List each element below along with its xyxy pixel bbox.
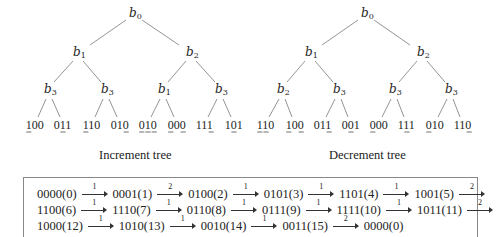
- tree-edge: [315, 61, 333, 82]
- tree-edge: [142, 20, 179, 45]
- sequence-line: 1000(12)11010(13)10010(14)10011(15)20000…: [37, 219, 403, 234]
- state-value: 1100(6): [37, 203, 76, 218]
- tree-leaf: 010: [139, 118, 157, 132]
- arrow-label: 1: [156, 198, 182, 207]
- tree-root-node: b0: [129, 6, 142, 21]
- state-value: 0101(3): [264, 187, 304, 202]
- state-value: 0011(15): [282, 219, 327, 234]
- tree-edge: [196, 61, 215, 82]
- state-value: 0000(0): [364, 219, 404, 234]
- tree-edge: [269, 99, 279, 117]
- tree-node: b3: [389, 82, 402, 97]
- tree-root-node: b0: [361, 6, 374, 21]
- arrow-label: 2: [157, 182, 183, 191]
- tree-edge: [382, 99, 391, 117]
- tree-leaf: 111: [398, 118, 415, 132]
- arrow-label: 2: [467, 198, 493, 207]
- tree-edge: [427, 61, 445, 82]
- tree-edge: [341, 99, 348, 117]
- tree-edge: [453, 99, 460, 117]
- tree-node: b1: [73, 45, 86, 60]
- state-value: 1101(4): [339, 187, 378, 202]
- arrow-label: 1: [82, 182, 108, 191]
- tree-leaf: 010: [426, 118, 444, 132]
- decrement-tree-caption: Decrement tree: [329, 148, 406, 163]
- tree-edge: [322, 20, 358, 45]
- state-value: 0000(0): [37, 187, 77, 202]
- tree-leaf: 000: [168, 118, 186, 132]
- tree-edge: [95, 99, 103, 117]
- arrow-label: 1: [251, 214, 277, 223]
- tree-node: b2: [186, 45, 199, 60]
- tree-leaf: 100: [26, 118, 44, 132]
- arrow-label: 1: [386, 198, 412, 207]
- arrow-label: 1: [306, 198, 332, 207]
- state-value: 1001(5): [414, 187, 454, 202]
- tree-node: b2: [277, 82, 290, 97]
- state-value: 0001(1): [113, 187, 153, 202]
- tree-edge: [151, 99, 160, 117]
- tree-node: b3: [101, 82, 114, 97]
- arrow-label: 2: [459, 182, 485, 191]
- tree-leaf: 001: [342, 118, 360, 132]
- tree-leaf: 000: [370, 118, 388, 132]
- tree-edge: [223, 99, 231, 117]
- tree-node: b1: [305, 45, 318, 60]
- tree-leaf: 110: [454, 118, 472, 132]
- arrow-label: 1: [170, 214, 196, 223]
- state-value: 0010(14): [201, 219, 247, 234]
- transition-arrow-icon: 1: [88, 219, 114, 231]
- tree-node: b3: [215, 82, 228, 97]
- tree-edge: [54, 61, 73, 82]
- tree-leaf: 010: [111, 118, 129, 132]
- tree-edge: [287, 61, 305, 82]
- tree-node: b3: [44, 82, 57, 97]
- transition-arrow-icon: 1: [251, 219, 277, 231]
- tree-node: b3: [333, 82, 346, 97]
- tree-edge: [109, 99, 117, 117]
- tree-leaf: 011: [314, 118, 332, 132]
- arrow-label: 1: [88, 214, 114, 223]
- tree-leaf: 011: [54, 118, 72, 132]
- transition-arrow-icon: 1: [170, 219, 196, 231]
- tree-edge: [374, 20, 410, 45]
- tree-edge: [83, 61, 101, 82]
- transition-arrow-icon: 2: [333, 219, 359, 231]
- sequence-box: 0000(0)10001(1)20100(2)10101(3)11101(4)1…: [23, 177, 478, 237]
- increment-tree: b0b1b2b3b3b1b3100011110010010000111101: [26, 6, 243, 132]
- tree-leaf: 100: [286, 118, 304, 132]
- tree-edge: [438, 99, 447, 117]
- tree-leaf: 110: [257, 118, 275, 132]
- transition-arrow-icon: 2: [467, 203, 493, 215]
- tree-edge: [166, 99, 174, 117]
- arrow-label: 1: [233, 182, 259, 191]
- tree-edge: [168, 61, 186, 82]
- transition-arrow-icon: 1: [386, 203, 412, 215]
- arrow-label: 1: [231, 198, 257, 207]
- tree-edge: [52, 99, 60, 117]
- tree-edge: [399, 61, 417, 82]
- tree-edge: [90, 20, 126, 45]
- arrow-label: 1: [383, 182, 409, 191]
- state-value: 1010(13): [119, 219, 165, 234]
- arrow-label: 1: [81, 198, 107, 207]
- increment-tree-caption: Increment tree: [99, 148, 172, 163]
- tree-edge: [38, 99, 46, 117]
- tree-edge: [208, 99, 217, 117]
- decrement-tree: b0b1b2b2b3b3b3110100011001000111010110: [257, 6, 472, 132]
- tree-leaf: 111: [196, 118, 213, 132]
- tree-leaf: 110: [83, 118, 101, 132]
- state-value: 1011(11): [417, 203, 462, 218]
- state-value: 1110(7): [112, 203, 151, 218]
- arrow-label: 2: [333, 214, 359, 223]
- arrow-label: 1: [308, 182, 334, 191]
- state-value: 0100(2): [188, 187, 228, 202]
- tree-leaf: 101: [225, 118, 243, 132]
- trees-diagram: b0b1b2b3b3b1b3100011110010010000111101 b…: [0, 0, 503, 140]
- tree-edge: [285, 99, 292, 117]
- tree-edge: [397, 99, 404, 117]
- tree-node: b3: [445, 82, 458, 97]
- state-value: 1000(12): [37, 219, 83, 234]
- tree-edge: [326, 99, 335, 117]
- tree-node: b1: [158, 82, 171, 97]
